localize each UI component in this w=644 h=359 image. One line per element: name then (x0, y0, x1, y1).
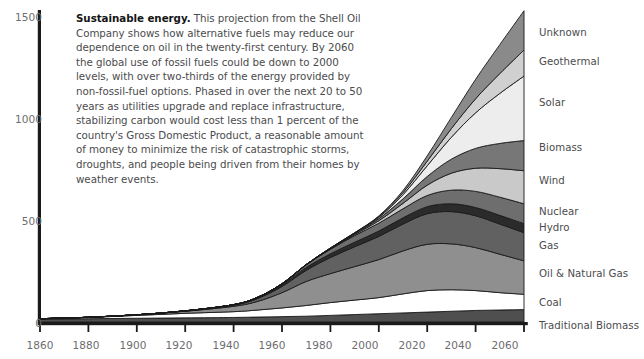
x-axis-line (38, 322, 528, 325)
legend-item-biomass: Biomass (539, 142, 582, 153)
y-tick-0: 0 (2, 317, 42, 329)
y-tick-1000: 1000 (2, 113, 42, 125)
x-tick-mark-1980 (330, 325, 332, 332)
x-tick-mark-1880 (88, 325, 90, 332)
x-tick-1860: 1860 (18, 339, 62, 351)
x-tick-2000: 2000 (343, 339, 387, 351)
x-tick-1880: 1880 (64, 339, 108, 351)
legend-item-hydro: Hydro (539, 222, 570, 233)
legend-item-traditional-biomass: Traditional Biomass (539, 320, 639, 331)
y-tick-500: 500 (2, 215, 42, 227)
x-tick-1940: 1940 (204, 339, 248, 351)
chart-figure: Sustainable energy. This projection from… (0, 0, 644, 359)
x-tick-1960: 1960 (250, 339, 294, 351)
x-tick-2060: 2060 (483, 339, 527, 351)
x-tick-mark-1920 (184, 325, 186, 332)
x-tick-mark-2060 (523, 325, 525, 332)
x-tick-2040: 2040 (436, 339, 480, 351)
x-tick-mark-2020 (426, 325, 428, 332)
x-tick-mark-2000 (378, 325, 380, 332)
legend-item-nuclear: Nuclear (539, 206, 579, 217)
x-tick-mark-1960 (281, 325, 283, 332)
x-tick-1980: 1980 (297, 339, 341, 351)
x-tick-1920: 1920 (157, 339, 201, 351)
x-tick-mark-1900 (136, 325, 138, 332)
y-axis-line (38, 10, 41, 324)
legend-item-gas: Gas (539, 240, 559, 251)
legend-item-geothermal: Geothermal (539, 56, 600, 67)
x-tick-1900: 1900 (111, 339, 155, 351)
x-tick-mark-1940 (233, 325, 235, 332)
x-tick-2020: 2020 (390, 339, 434, 351)
x-tick-mark-2040 (475, 325, 477, 332)
y-tick-1500: 1500 (2, 11, 42, 23)
legend-item-oil-natural-gas: Oil & Natural Gas (539, 268, 628, 279)
legend-item-solar: Solar (539, 97, 565, 108)
legend-item-unknown: Unknown (539, 27, 587, 38)
legend-item-coal: Coal (539, 297, 562, 308)
legend-item-wind: Wind (539, 175, 565, 186)
